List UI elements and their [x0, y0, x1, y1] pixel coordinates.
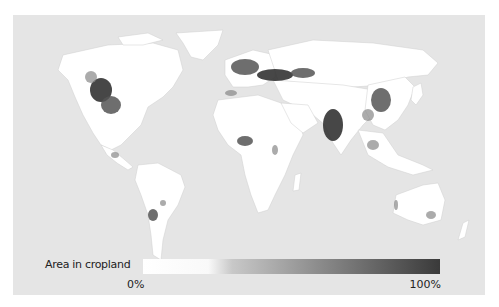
- map-panel: Area in cropland 0% 100%: [13, 15, 485, 295]
- madagascar: [293, 173, 301, 191]
- arctic-islands: [118, 33, 163, 45]
- australia: [393, 183, 445, 225]
- north-asia: [268, 40, 438, 87]
- north-america: [58, 43, 183, 150]
- legend-max-label: 100%: [409, 278, 441, 291]
- legend-min-label: 0%: [127, 278, 144, 291]
- southeast-asia: [358, 130, 433, 175]
- south-america: [135, 163, 185, 260]
- legend-title: Area in cropland: [45, 258, 130, 271]
- world-map: [13, 15, 485, 295]
- greenland: [176, 30, 223, 60]
- new-zealand: [458, 220, 469, 240]
- legend-gradient-bar: [143, 259, 440, 274]
